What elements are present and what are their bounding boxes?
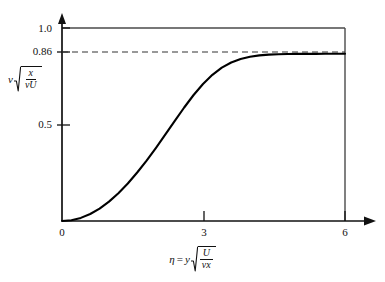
figure-root: 1.0 0.86 0.5 0 3 6 v x νU: [0, 0, 385, 282]
blasius-curve: [62, 54, 345, 221]
blasius-velocity-chart: [0, 0, 385, 282]
y-axis-label-variable: v: [8, 74, 13, 85]
y-tick-label-0.86: 0.86: [10, 46, 52, 57]
x-axis-arrowhead: [364, 217, 376, 226]
radical-sign-icon: [14, 66, 21, 92]
y-axis-label-radical: x νU: [14, 66, 42, 92]
y-axis-label: v x νU: [8, 66, 42, 92]
x-axis-label-equals: =: [175, 254, 185, 265]
y-axis-arrowhead: [58, 13, 66, 24]
y-axis-label-U: U: [29, 79, 36, 90]
x-axis-label-x: x: [206, 259, 210, 270]
radical-sign-icon: [191, 246, 198, 272]
x-tick-label-3: 3: [194, 227, 214, 238]
y-tick-label-0.5: 0.5: [14, 119, 52, 130]
x-axis-label-radical: U νx: [191, 246, 216, 272]
x-axis-label-variable: y: [185, 254, 190, 265]
x-tick-label-6: 6: [335, 227, 355, 238]
x-axis-label: η = y U νx: [0, 246, 385, 272]
y-tick-label-1.0: 1.0: [14, 23, 52, 34]
x-tick-label-0: 0: [52, 227, 72, 238]
